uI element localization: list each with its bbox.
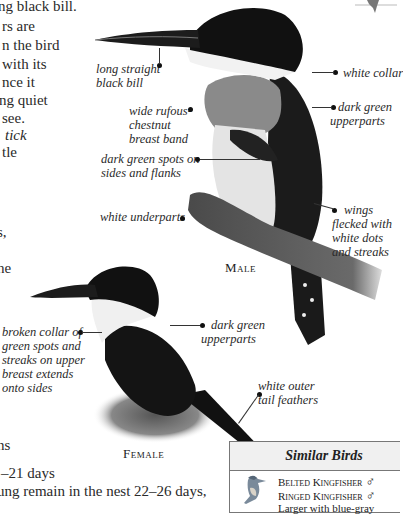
leader-line	[170, 325, 200, 326]
nestling-text: ung remain in the nest 22–26 days,	[0, 481, 207, 502]
leader-dot	[180, 216, 185, 221]
body-line: n the bird	[2, 35, 60, 56]
body-line: s,	[0, 222, 7, 243]
leader-dot	[188, 107, 193, 112]
similar-birds-panel: Similar Birds Belted Kingfisher♂ Ringed …	[229, 441, 400, 513]
male-symbol-icon: ♂	[365, 474, 375, 489]
label-male-upperparts: dark green upperparts	[330, 100, 392, 128]
belted-kingfisher-thumbnail-icon	[240, 474, 270, 506]
label-dark-green-spots: dark green spots on sides and flanks	[101, 152, 200, 180]
label-white-underparts: white underparts	[100, 210, 185, 224]
label-long-straight-black-bill: long straight black bill	[96, 62, 160, 90]
similar-bird-name: Belted Kingfisher	[278, 476, 362, 488]
label-white-collar: white collar	[343, 66, 403, 80]
leader-line	[200, 159, 260, 160]
similar-bird-name: Ringed Kingfisher	[278, 490, 363, 502]
leader-line	[82, 332, 102, 333]
label-breast-band: wide rufous- chestnut breast band	[129, 104, 192, 146]
similar-bird-item: Belted Kingfisher♂	[278, 475, 375, 489]
similar-bird-item: Ringed Kingfisher♂	[278, 489, 375, 503]
leader-line	[159, 48, 160, 64]
body-line: rs are	[2, 16, 35, 37]
body-line: ns	[0, 435, 10, 456]
body-line: tle	[2, 142, 17, 163]
label-white-outer-tail-feathers: white outer tail feathers	[258, 379, 318, 407]
label-female-upperparts: dark green upperparts	[201, 318, 265, 346]
male-symbol-icon: ♂	[366, 488, 376, 503]
body-line: he	[0, 258, 11, 279]
label-broken-collar: broken collar of green spots and streaks…	[2, 325, 85, 395]
label-wings: wings flecked with white dots and streak…	[332, 203, 392, 259]
leader-line	[312, 72, 334, 73]
leader-line	[312, 107, 332, 108]
male-caption: Male	[225, 260, 256, 276]
similar-birds-title: Similar Birds	[230, 442, 400, 471]
body-line: ng black bill.	[0, 0, 77, 17]
leader-dot	[200, 323, 205, 328]
female-caption: Female	[123, 446, 164, 462]
similar-bird-note: Larger with blue-gray	[278, 502, 374, 515]
